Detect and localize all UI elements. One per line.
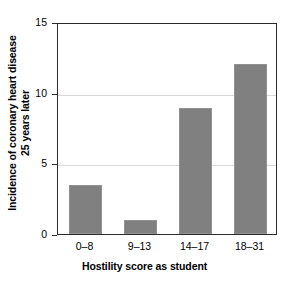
x-tick-label: 0–8	[55, 240, 115, 252]
x-axis-title: Hostility score as student	[0, 260, 289, 273]
bar	[234, 64, 267, 234]
y-axis-title: Incidence of coronary heart disease 25 y…	[4, 8, 34, 238]
y-tick-label: 5	[17, 158, 47, 169]
x-tick-label: 14–17	[165, 240, 225, 252]
x-tick-label: 18–31	[220, 240, 280, 252]
y-axis-title-line-1: Incidence of coronary heart disease	[6, 35, 20, 211]
y-tick-mark	[52, 235, 57, 236]
chart-figure: Incidence of coronary heart disease 25 y…	[0, 0, 289, 282]
y-tick-label: 15	[17, 17, 47, 28]
y-axis-title-line-2: 25 years later	[19, 90, 33, 156]
y-tick-label: 0	[17, 229, 47, 240]
x-tick-label: 9–13	[110, 240, 170, 252]
plot-area	[57, 23, 277, 235]
bar	[124, 220, 157, 234]
y-tick-label: 10	[17, 88, 47, 99]
bar	[69, 185, 102, 234]
bar	[179, 108, 212, 234]
